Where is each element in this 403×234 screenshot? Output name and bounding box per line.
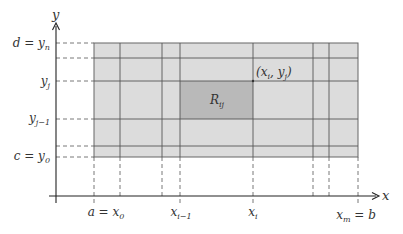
y-tick-label-y0: c = y0 (14, 149, 50, 165)
x-tick-label-xi-minus-1: xi−1 (170, 205, 191, 221)
y-tick-label-yj: yj (40, 74, 51, 90)
point-xi-yj (252, 80, 254, 82)
point-label-xi-yj: (xi, yj) (256, 65, 292, 81)
x-tick-label-xm: xm = b (336, 208, 376, 224)
y-tick-label-yj-minus-1: yj−1 (28, 111, 50, 127)
x-tick-label-x0: a = x0 (88, 205, 125, 221)
x-tick-label-xi: xi (248, 205, 258, 221)
dashed-y-guides (56, 43, 94, 157)
riemann-partition-diagram: y x d = yn yj yj−1 c = y0 a = x0 xi−1 xi… (0, 0, 403, 234)
y-axis-label: y (51, 7, 60, 22)
y-tick-label-yn: d = yn (13, 36, 50, 52)
x-axis-label: x (382, 188, 390, 203)
